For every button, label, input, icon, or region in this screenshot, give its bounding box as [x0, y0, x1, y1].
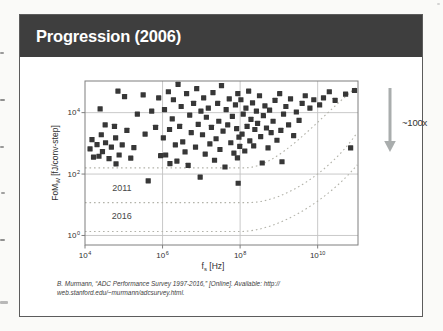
scan-artifact: [0, 146, 4, 148]
y-tick-label: 102: [56, 169, 80, 179]
scan-artifact: [1, 192, 5, 194]
scan-artifact: [0, 52, 4, 54]
y-tick-label: 104: [56, 107, 80, 117]
trend-year-label: 2016: [112, 211, 132, 221]
trend-year-label: 2011: [112, 183, 131, 193]
scan-artifact: [0, 239, 5, 241]
x-axis-label: fs [Hz]: [202, 261, 225, 272]
scan-artifact: [437, 3, 440, 5]
x-tick-label: 106: [150, 250, 176, 260]
scan-artifact: [0, 99, 5, 101]
citation-line-1: B. Murmann, “ADC Performance Survey 1997…: [57, 280, 357, 289]
title-bar: Progression (2006): [20, 15, 422, 57]
y-axis-label: FoMW [fJ/conv-step]: [50, 125, 61, 201]
hundredx-annotation: ~100x: [402, 117, 427, 128]
scanned-slide-page: Progression (2006) FoMW [fJ/conv-step] f…: [0, 0, 443, 331]
x-tick-label: 108: [227, 250, 253, 260]
citation-line-2: web.stanford.edu/~murmann/adcsurvey.html…: [57, 289, 357, 298]
slide-title: Progression (2006): [20, 27, 181, 46]
scan-artifact: [0, 301, 8, 304]
citation: B. Murmann, “ADC Performance Survey 1997…: [57, 280, 357, 298]
y-tick-label: 100: [56, 230, 80, 240]
x-tick-label: 104: [72, 250, 98, 260]
x-tick-label: 1010: [305, 250, 331, 260]
